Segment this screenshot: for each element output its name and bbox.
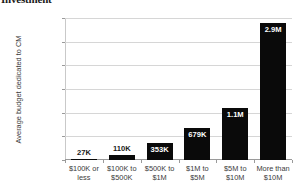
bar-chart: Investment Average budget dedicated to C… (0, 0, 301, 194)
x-axis-tick-mark (216, 160, 217, 163)
x-axis-category-line: $1M (141, 174, 179, 183)
x-axis-category-label: More than$10M (254, 165, 292, 182)
x-axis-category-label: $100K orless (65, 165, 103, 182)
x-axis-tick-mark (254, 160, 255, 163)
y-axis-title: Average budget dedicated to CM (14, 25, 23, 155)
gridline (65, 136, 292, 137)
x-axis-tick-mark (141, 160, 142, 163)
y-axis-tick-mark (62, 18, 65, 19)
y-axis-tick-mark (62, 89, 65, 90)
gridline (65, 42, 292, 43)
bar[interactable]: 1.1M (222, 108, 248, 160)
bar-value-label: 2.9M (265, 25, 282, 34)
bar[interactable]: 110K (109, 155, 135, 160)
y-axis-tick-mark (62, 136, 65, 137)
bar-value-label: 679K (188, 130, 206, 139)
x-axis-category-line: $10M (216, 174, 254, 183)
plot-area: 27K110K353K679K1.1M2.9M (65, 18, 292, 160)
gridline (65, 113, 292, 114)
bar[interactable]: 27K (71, 159, 97, 161)
bar-value-label: 110K (113, 144, 131, 153)
bar[interactable]: 679K (184, 128, 210, 160)
gridline (65, 89, 292, 90)
y-axis-tick-mark (62, 42, 65, 43)
x-axis-category-label: $1M to$5M (179, 165, 217, 182)
x-axis-category-label: $100K to$500K (103, 165, 141, 182)
x-axis-tick-mark (179, 160, 180, 163)
y-axis-tick-mark (62, 65, 65, 66)
x-axis-tick-mark (65, 160, 66, 163)
bar[interactable]: 353K (147, 143, 173, 160)
x-axis-tick-mark (103, 160, 104, 163)
x-axis-category-line: $5M (179, 174, 217, 183)
gridline (65, 18, 292, 19)
bar-value-label: 27K (77, 148, 91, 157)
x-axis-category-line: $10M (254, 174, 292, 183)
bar-value-label: 353K (151, 145, 169, 154)
bar[interactable]: 2.9M (260, 23, 286, 160)
y-axis-tick-mark (62, 113, 65, 114)
gridline (65, 65, 292, 66)
x-axis-category-label: $500K to$1M (141, 165, 179, 182)
x-axis-category-label: $5M to$10M (216, 165, 254, 182)
x-axis-tick-mark (292, 160, 293, 163)
bar-value-label: 1.1M (227, 110, 244, 119)
chart-title: Investment (1, 0, 52, 5)
x-axis-category-line: $500K (103, 174, 141, 183)
x-axis-category-line: less (65, 174, 103, 183)
